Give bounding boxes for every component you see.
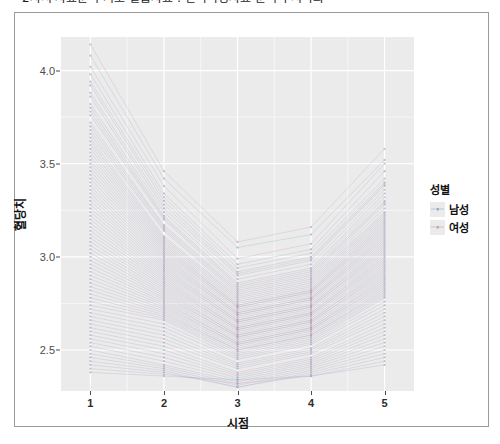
legend-item-label: 남성 [449, 201, 469, 217]
x-tick-label: 4 [308, 397, 314, 409]
y-tick-mark [56, 256, 60, 257]
x-tick-label: 2 [161, 397, 167, 409]
legend-key-swatch [430, 202, 445, 217]
y-axis-tick-marks [15, 37, 61, 391]
spaghetti-lines [61, 37, 414, 391]
x-axis-tick-labels: 12345 [61, 397, 414, 413]
plot-panel [61, 37, 414, 391]
figure-frame: 혈당치 2.53.03.54.0 12345 시점 성별 남성여성 [14, 12, 489, 427]
x-tick-label: 3 [234, 397, 240, 409]
x-axis-tick-marks [61, 391, 414, 396]
x-axis-title: 시점 [61, 414, 414, 431]
x-tick-mark [385, 391, 386, 395]
x-tick-mark [238, 391, 239, 395]
y-tick-mark [56, 70, 60, 71]
x-tick-mark [90, 391, 91, 395]
x-tick-label: 1 [87, 397, 93, 409]
y-tick-mark [56, 350, 60, 351]
legend-items: 남성여성 [430, 201, 488, 235]
y-tick-mark [56, 163, 60, 164]
document-title: 2차시 자료분석 기초 실습자료 : 반복측정자료 분석과 시각화 [22, 0, 324, 5]
legend: 성별 남성여성 [430, 181, 488, 235]
legend-item: 여성 [430, 219, 488, 235]
x-tick-label: 5 [382, 397, 388, 409]
legend-item-label: 여성 [449, 219, 469, 235]
legend-title: 성별 [430, 181, 488, 197]
legend-key-swatch [430, 220, 445, 235]
x-tick-mark [311, 391, 312, 395]
legend-item: 남성 [430, 201, 488, 217]
x-tick-mark [164, 391, 165, 395]
document-title-strip: 2차시 자료분석 기초 실습자료 : 반복측정자료 분석과 시각화 [0, 0, 500, 10]
